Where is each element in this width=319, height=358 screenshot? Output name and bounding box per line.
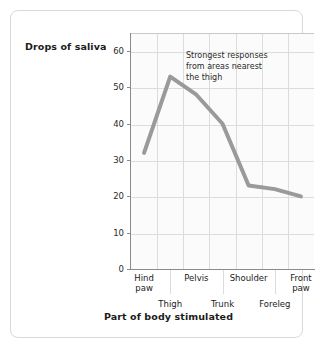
y-tick-mark (127, 269, 131, 270)
x-tick-label: Trunk (211, 299, 234, 309)
y-tick-label: 30 (98, 155, 124, 165)
x-tick-label: Thigh (158, 299, 182, 309)
x-tick-label: Front paw (290, 273, 312, 293)
y-tick-label: 0 (98, 264, 124, 274)
x-tick-label: Shoulder (230, 273, 268, 283)
annotation-line-1: Strongest responses (186, 50, 298, 61)
annotation-line-2: from areas nearest (186, 61, 298, 72)
y-axis-title: Drops of saliva (25, 41, 107, 52)
y-tick-label: 40 (98, 119, 124, 129)
chart-annotation: Strongest responses from areas nearest t… (186, 50, 298, 83)
y-tick-label: 20 (98, 191, 124, 201)
x-tick-stem (275, 270, 276, 294)
y-tick-label: 10 (98, 228, 124, 238)
chart-card: Drops of saliva Strongest responses from… (10, 10, 303, 338)
y-tick-mark (127, 51, 131, 52)
x-tick-label: Foreleg (259, 299, 290, 309)
x-tick-stem (170, 270, 171, 294)
y-tick-mark (127, 196, 131, 197)
y-tick-mark (127, 87, 131, 88)
x-tick-label: Pelvis (184, 273, 208, 283)
y-tick-label: 60 (98, 46, 124, 56)
y-tick-mark (127, 233, 131, 234)
y-tick-mark (127, 124, 131, 125)
series-polyline (144, 77, 301, 197)
x-axis-title: Part of body stimulated (11, 311, 302, 322)
y-tick-mark (127, 160, 131, 161)
annotation-line-3: the thigh (186, 72, 298, 83)
x-tick-stem (223, 270, 224, 294)
x-axis-title-text: Part of body stimulated (80, 311, 233, 322)
x-tick-label: Hind paw (134, 273, 154, 293)
y-tick-label: 50 (98, 82, 124, 92)
